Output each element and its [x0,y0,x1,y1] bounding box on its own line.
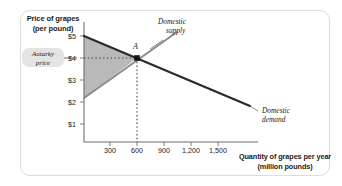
y-axis-title: Price of grapes (per pound) [22,14,84,33]
x-tick-label-600: 600 [124,146,150,155]
autarky-line-1: Autarky [32,50,54,58]
supply-label-line-2: supply [166,26,185,35]
supply-label-line-1: Domestic [158,17,186,26]
x-tick-label-1200: 1,200 [178,146,204,155]
y-axis-ticks [80,36,84,124]
point-a-marker [134,55,140,61]
figure-canvas: Price of grapes (per pound) Quantity of … [0,0,342,186]
domestic-demand-label: Domestic demand [262,106,322,124]
x-tick-label-1500: 1,500 [205,146,231,155]
demand-label-line-1: Domestic [262,106,290,115]
x-tick-label-300: 300 [97,146,123,155]
x-axis-title: Quantity of grapes per year (million pou… [233,152,337,171]
demand-label-line-2: demand [262,115,285,124]
point-a-label: A [133,42,138,51]
y-tick-label-2: $2 [60,98,76,107]
y-tick-label-1: $1 [60,120,76,129]
x-tick-label-900: 900 [151,146,177,155]
demand-label-leader-line [250,106,258,111]
y-tick-label-5: $5 [60,32,76,41]
autarky-price-callout-label: Autarky price [22,50,64,67]
domestic-supply-label: Domestic supply [158,17,218,35]
autarky-line-2: price [36,59,50,67]
y-tick-label-4: $4 [60,54,76,63]
y-tick-label-3: $3 [60,76,76,85]
autarky-price-callout: Autarky price [22,48,64,67]
